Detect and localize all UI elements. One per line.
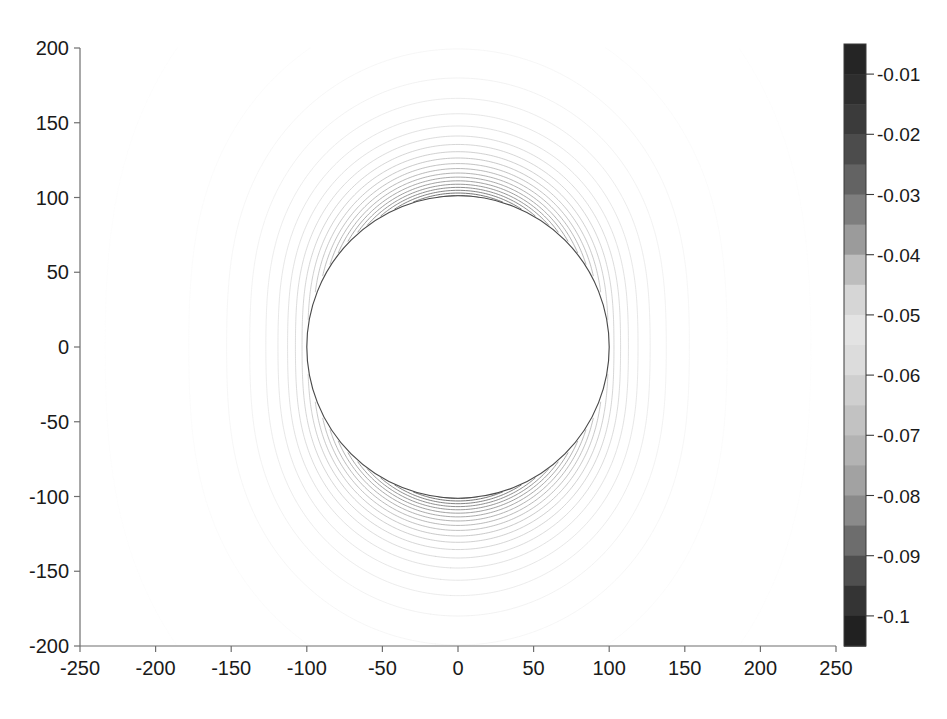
colorbar-swatch [844, 225, 866, 256]
colorbar-swatch [844, 345, 866, 376]
colorbar-swatch [844, 496, 866, 527]
contour-line [739, 48, 811, 646]
y-tick-label: 200 [36, 37, 69, 59]
colorbar-swatch [844, 405, 866, 436]
y-tick-label: 150 [36, 112, 69, 134]
x-tick-label: 250 [819, 657, 852, 679]
y-axis-tick-group: -200-150-100-50050100150200 [29, 37, 80, 657]
colorbar-swatch [844, 74, 866, 105]
colorbar-swatch [844, 315, 866, 346]
y-tick-label: -150 [29, 560, 69, 582]
x-tick-label: 200 [744, 657, 777, 679]
x-tick-label: 0 [452, 657, 463, 679]
colorbar: -0.01-0.02-0.03-0.04-0.05-0.06-0.07-0.08… [844, 44, 921, 647]
colorbar-swatch [844, 195, 866, 226]
colorbar-tick-label: -0.09 [877, 546, 920, 567]
x-tick-label: -100 [287, 657, 327, 679]
colorbar-swatch [844, 164, 866, 195]
y-tick-label: 0 [58, 336, 69, 358]
contour-line [105, 48, 177, 646]
x-tick-label: 50 [522, 657, 544, 679]
colorbar-tick-label: -0.1 [877, 606, 910, 627]
y-tick-label: 50 [47, 261, 69, 283]
y-tick-label: 100 [36, 187, 69, 209]
x-tick-label: 100 [593, 657, 626, 679]
colorbar-tick-label: -0.05 [877, 305, 920, 326]
x-tick-label: -200 [136, 657, 176, 679]
colorbar-swatch [844, 285, 866, 316]
masked-circle-group [307, 196, 609, 498]
y-tick-label: -200 [29, 635, 69, 657]
colorbar-swatch [844, 465, 866, 496]
colorbar-swatch [844, 255, 866, 286]
y-tick-label: -50 [40, 411, 69, 433]
colorbar-tick-label: -0.07 [877, 425, 920, 446]
colorbar-swatch [844, 556, 866, 587]
colorbar-swatch [844, 44, 866, 75]
plot-canvas: -250-200-150-100-50050100150200250 -200-… [0, 0, 947, 719]
body-circle [307, 196, 609, 498]
x-tick-label: -50 [368, 657, 397, 679]
colorbar-swatch [844, 616, 866, 647]
x-tick-label: -150 [211, 657, 251, 679]
x-tick-label: -250 [60, 657, 100, 679]
x-axis-tick-group: -250-200-150-100-50050100150200250 [60, 646, 853, 679]
colorbar-swatch [844, 134, 866, 165]
colorbar-tick-label: -0.08 [877, 486, 920, 507]
colorbar-swatch [844, 104, 866, 135]
colorbar-tick-label: -0.06 [877, 365, 920, 386]
colorbar-tick-label: -0.04 [877, 245, 921, 266]
colorbar-tick-label: -0.01 [877, 64, 920, 85]
colorbar-swatch [844, 375, 866, 406]
colorbar-swatch [844, 435, 866, 466]
x-tick-label: 150 [668, 657, 701, 679]
colorbar-tick-label: -0.02 [877, 124, 920, 145]
colorbar-swatch [844, 526, 866, 557]
contour-figure: -250-200-150-100-50050100150200250 -200-… [0, 0, 947, 719]
y-tick-label: -100 [29, 486, 69, 508]
colorbar-tick-label: -0.03 [877, 185, 920, 206]
colorbar-swatch [844, 586, 866, 617]
